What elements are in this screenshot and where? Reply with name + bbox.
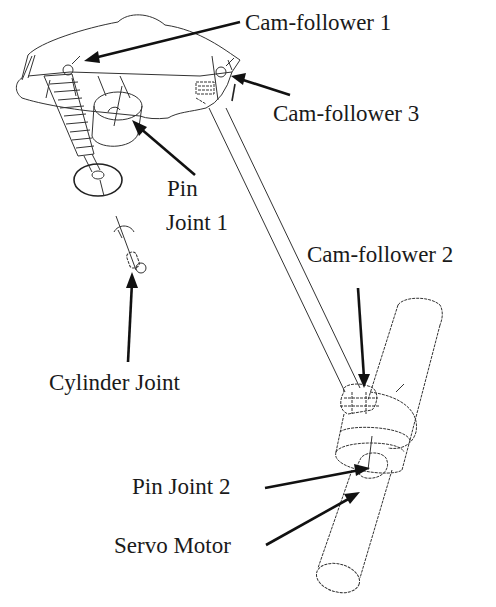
label-pin-joint-1-line1: Pin	[167, 176, 198, 202]
valve-spring	[44, 74, 94, 156]
mechanism-wireframe	[0, 0, 496, 607]
label-cam-follower-3: Cam-follower 3	[273, 101, 419, 127]
arrow-cylinder-joint	[126, 272, 138, 362]
arrow-pin-joint-2	[265, 464, 370, 488]
label-pin-joint-1-line2: Joint 1	[166, 210, 228, 236]
pin-joint-1-cylinder	[92, 86, 142, 146]
arrow-cam-follower-1	[84, 22, 240, 63]
valve-head	[74, 154, 122, 196]
label-cam-follower-2: Cam-follower 2	[307, 242, 453, 268]
cam-assembly	[336, 384, 417, 478]
arrow-cam-follower-2	[358, 288, 370, 388]
cylinder-joint-marker	[114, 216, 146, 273]
label-cam-follower-1: Cam-follower 1	[245, 10, 391, 36]
arrow-cam-follower-3	[231, 73, 290, 95]
arrow-servo-motor	[266, 492, 360, 545]
mechanism-diagram: Cam-follower 1 Cam-follower 3 Pin Joint …	[0, 0, 496, 607]
label-pin-joint-2: Pin Joint 2	[132, 474, 230, 500]
arrow-pin-joint-1	[132, 120, 195, 175]
label-servo-motor: Servo Motor	[114, 533, 231, 559]
label-cylinder-joint: Cylinder Joint	[49, 370, 180, 396]
cam-shaft-cylinder	[313, 298, 442, 597]
